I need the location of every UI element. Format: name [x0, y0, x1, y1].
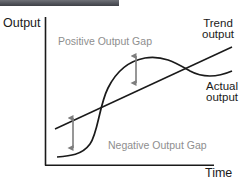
negative-output-gap-label: Negative Output Gap	[108, 140, 207, 151]
positive-output-gap-label: Positive Output Gap	[58, 36, 152, 47]
actual-output-label-line2: output	[197, 92, 247, 103]
y-axis-label: Output	[3, 18, 41, 29]
output-gap-diagram: Output Time Trend output Actual output P…	[0, 0, 248, 184]
x-axis-label: Time	[205, 168, 232, 179]
trend-output-label-line2: output	[193, 29, 243, 40]
actual-output-label: Actual output	[197, 81, 247, 103]
trend-output-label: Trend output	[193, 18, 243, 40]
